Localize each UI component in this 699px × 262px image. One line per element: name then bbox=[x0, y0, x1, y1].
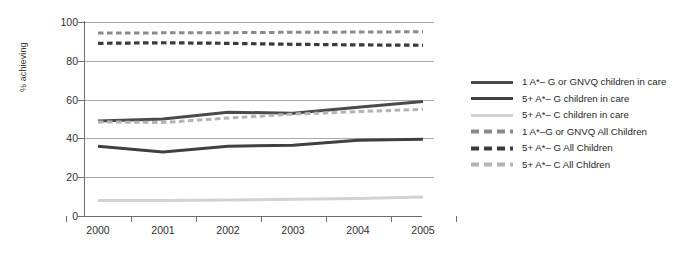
solid-light-line-swatch bbox=[470, 110, 514, 121]
chart-legend: 1 A*– G or GNVQ children in care5+ A*– G… bbox=[470, 74, 699, 173]
legend-item[interactable]: 5+ A*– C All Chldren bbox=[470, 157, 699, 174]
plot-lines bbox=[0, 0, 470, 262]
legend-item-label: 1 A*–G or GNVQ All Children bbox=[522, 127, 647, 137]
series-line bbox=[98, 197, 423, 200]
legend-item-label: 5+ A*– C All Chldren bbox=[522, 160, 610, 170]
dashed-light-line-swatch bbox=[470, 159, 514, 170]
solid-dark-line-swatch bbox=[470, 93, 514, 104]
solid-dark-line-swatch bbox=[470, 77, 514, 88]
legend-item-label: 5+ A*– C children in care bbox=[522, 110, 629, 120]
dashed-gray-line-swatch bbox=[470, 126, 514, 137]
legend-item-label: 1 A*– G or GNVQ children in care bbox=[522, 77, 666, 87]
legend-item-label: 5+ A*– G children in care bbox=[522, 94, 629, 104]
legend-item[interactable]: 5+ A*– G All Children bbox=[470, 140, 699, 157]
series-line bbox=[98, 139, 423, 152]
series-line bbox=[98, 102, 423, 121]
legend-item[interactable]: 1 A*– G or GNVQ children in care bbox=[470, 74, 699, 91]
line-chart: % achieving 020406080100 200020012002200… bbox=[0, 0, 470, 262]
legend-item[interactable]: 1 A*–G or GNVQ All Children bbox=[470, 124, 699, 141]
dashed-dark-line-swatch bbox=[470, 143, 514, 154]
legend-item[interactable]: 5+ A*– C children in care bbox=[470, 107, 699, 124]
series-line bbox=[98, 32, 423, 33]
legend-item-label: 5+ A*– G All Children bbox=[522, 143, 613, 153]
chart-page: % achieving 020406080100 200020012002200… bbox=[0, 0, 699, 262]
legend-item[interactable]: 5+ A*– G children in care bbox=[470, 91, 699, 108]
series-line bbox=[98, 43, 423, 46]
